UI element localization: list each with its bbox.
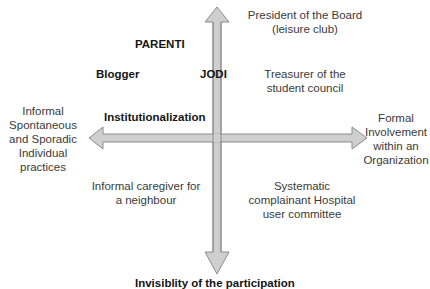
left-axis-line: Spontaneous (0, 118, 86, 132)
invisibility-label: Invisiblity of the participation (135, 276, 295, 289)
label-line: (leisure club) (240, 22, 370, 36)
right-axis-line: Formal (362, 111, 430, 125)
left-axis-line: practices (0, 160, 86, 174)
label-line: Systematic (232, 179, 372, 193)
horizontal-arrow (89, 127, 367, 149)
hospital-committee-label: Systematic complainant Hospital user com… (232, 179, 372, 221)
parenti-label: PARENTI (135, 37, 185, 51)
right-axis-line: within an (362, 139, 430, 153)
left-axis-line: and Sporadic (0, 132, 86, 146)
right-axis-label: Formal Involvement within an Organizatio… (362, 111, 430, 167)
label-line: President of the Board (240, 8, 370, 22)
label-line: a neighbour (86, 193, 206, 207)
left-axis-line: Informal (0, 104, 86, 118)
left-axis-label: Informal Spontaneous and Sporadic Indivi… (0, 104, 86, 174)
jodi-label: JODI (200, 67, 227, 81)
president-board-label: President of the Board (leisure club) (240, 8, 370, 36)
blogger-label: Blogger (96, 67, 139, 81)
left-axis-line: Individual (0, 146, 86, 160)
label-line: Treasurer of the (240, 67, 370, 81)
label-line: complainant Hospital (232, 193, 372, 207)
treasurer-label: Treasurer of the student council (240, 67, 370, 95)
institutionalization-label: Institutionalization (104, 110, 206, 124)
right-axis-line: Involvement (362, 125, 430, 139)
label-line: user committee (232, 207, 372, 221)
label-line: student council (240, 81, 370, 95)
label-line: Informal caregiver for (86, 179, 206, 193)
caregiver-label: Informal caregiver for a neighbour (86, 179, 206, 207)
right-axis-line: Organization (362, 153, 430, 167)
